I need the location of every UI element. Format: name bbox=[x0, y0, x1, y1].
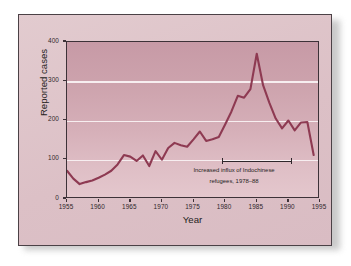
annotation-bracket bbox=[222, 158, 292, 164]
x-tick-label-1965: 1965 bbox=[115, 203, 143, 210]
y-tick-label-100: 100 bbox=[29, 154, 59, 161]
plot-area bbox=[66, 41, 319, 198]
figure-screenshot: Reported cases 400 300 200 100 0 bbox=[0, 0, 351, 266]
y-tick-label-400: 400 bbox=[29, 37, 59, 44]
annotation-text-line1: Increased influx of Indochinese bbox=[169, 167, 299, 173]
x-tick-label-1955: 1955 bbox=[52, 203, 80, 210]
x-tick-1955 bbox=[66, 199, 67, 203]
y-tick-label-0: 0 bbox=[29, 194, 59, 201]
x-tick-1970 bbox=[161, 199, 162, 203]
y-tick-300 bbox=[63, 80, 67, 81]
y-tick-400 bbox=[63, 40, 67, 41]
y-tick-label-200: 200 bbox=[29, 115, 59, 122]
figure-frame: Reported cases 400 300 200 100 0 bbox=[18, 14, 332, 246]
x-tick-1990 bbox=[287, 199, 288, 203]
x-tick-label-1960: 1960 bbox=[84, 203, 112, 210]
x-tick-label-1970: 1970 bbox=[147, 203, 175, 210]
x-tick-label-1995: 1995 bbox=[305, 203, 333, 210]
x-axis-title: Year bbox=[66, 214, 319, 225]
data-series-line bbox=[67, 42, 319, 198]
x-tick-1965 bbox=[129, 199, 130, 203]
x-tick-1975 bbox=[193, 199, 194, 203]
x-tick-1980 bbox=[224, 199, 225, 203]
y-tick-200 bbox=[63, 119, 67, 120]
x-tick-label-1985: 1985 bbox=[242, 203, 270, 210]
x-tick-label-1980: 1980 bbox=[210, 203, 238, 210]
x-tick-label-1990: 1990 bbox=[273, 203, 301, 210]
y-tick-label-300: 300 bbox=[29, 76, 59, 83]
x-tick-1995 bbox=[319, 199, 320, 203]
x-tick-label-1975: 1975 bbox=[179, 203, 207, 210]
x-tick-1960 bbox=[98, 199, 99, 203]
bracket-cap-right bbox=[291, 158, 292, 164]
x-tick-1985 bbox=[256, 199, 257, 203]
bracket-bar bbox=[222, 161, 292, 162]
y-tick-100 bbox=[63, 158, 67, 159]
annotation-text-line2: refugees, 1978–88 bbox=[169, 178, 299, 184]
